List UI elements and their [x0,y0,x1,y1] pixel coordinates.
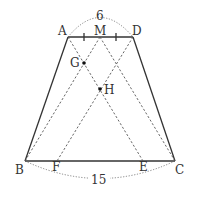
measure-bottom: 15 [91,173,106,187]
side-ab [25,37,68,161]
dashed-mb [25,37,100,161]
label-g: G [70,56,80,70]
label-a: A [57,24,67,38]
label-d: D [132,24,142,38]
point-g [82,61,86,65]
dashed-mc [100,37,175,161]
label-e: E [139,160,148,174]
trapezoid-diagram: A M D G H B F E C 6 15 [0,0,197,200]
label-m: M [94,24,106,38]
label-b: B [15,163,24,177]
side-dc [133,37,175,161]
point-h [98,87,102,91]
dashed-df [57,37,133,161]
measure-top: 6 [96,9,104,23]
label-h: H [104,83,114,97]
label-f: F [52,160,60,174]
label-c: C [175,163,184,177]
